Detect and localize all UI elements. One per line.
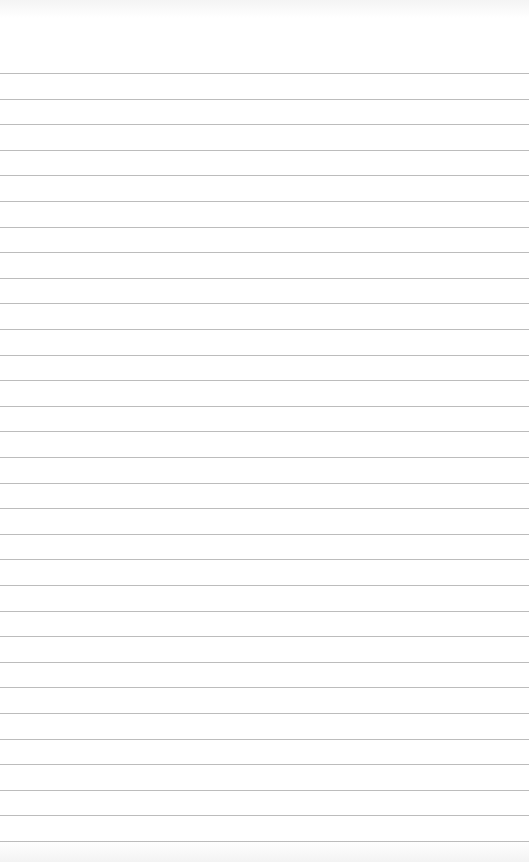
ruled-line: [0, 380, 529, 381]
ruled-line: [0, 201, 529, 202]
ruled-line: [0, 329, 529, 330]
ruled-line: [0, 227, 529, 228]
ruled-line: [0, 534, 529, 535]
ruled-line: [0, 662, 529, 663]
ruled-line: [0, 99, 529, 100]
ruled-line: [0, 559, 529, 560]
ruled-line: [0, 687, 529, 688]
ruled-line: [0, 790, 529, 791]
ruled-line: [0, 841, 529, 842]
ruled-line: [0, 252, 529, 253]
ruled-line: [0, 355, 529, 356]
ruled-line: [0, 739, 529, 740]
ruled-line: [0, 406, 529, 407]
ruled-line: [0, 585, 529, 586]
ruled-line: [0, 508, 529, 509]
ruled-line: [0, 815, 529, 816]
ruled-line: [0, 303, 529, 304]
ruled-line: [0, 175, 529, 176]
ruled-line: [0, 278, 529, 279]
ruled-line: [0, 483, 529, 484]
ruled-line: [0, 611, 529, 612]
lined-paper: [0, 0, 529, 862]
ruled-line: [0, 124, 529, 125]
ruled-line: [0, 764, 529, 765]
ruled-line: [0, 150, 529, 151]
ruled-line: [0, 636, 529, 637]
ruled-line: [0, 457, 529, 458]
ruled-line: [0, 713, 529, 714]
ruled-line: [0, 431, 529, 432]
ruled-line: [0, 73, 529, 74]
